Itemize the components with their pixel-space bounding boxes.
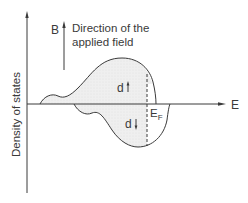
y-axis-arrowhead [25, 11, 28, 18]
spin-split-dos-diagram: B Direction of the applied field E Densi… [0, 0, 248, 203]
fermi-energy-subscript: F [158, 113, 163, 122]
y-axis-label: Density of states [10, 72, 22, 157]
field-caption-line2: applied field [72, 36, 133, 48]
field-caption-line1: Direction of the [72, 22, 149, 34]
x-axis-label: E [231, 98, 239, 112]
field-arrow-head [62, 21, 65, 28]
spin-down-label: d [125, 117, 132, 131]
spin-up-label: d [117, 81, 124, 95]
spin-up-band-fill-lower [40, 58, 147, 104]
fermi-energy-label: EF [150, 107, 163, 122]
x-axis-arrowhead [218, 102, 226, 106]
field-symbol-label: B [51, 23, 59, 37]
